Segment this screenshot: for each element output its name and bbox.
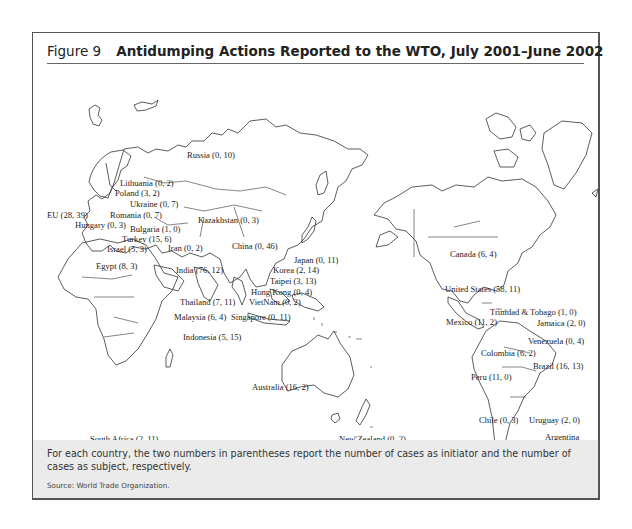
label-venezuela: Venezuela (0, 4) bbox=[528, 337, 584, 346]
world-map: Russia (0, 10) Lithuania (0, 2) Poland (… bbox=[34, 67, 599, 465]
label-chile: Chile (0, 3) bbox=[479, 416, 518, 425]
label-united-states: United States (58, 11) bbox=[445, 285, 520, 294]
figure-title: Antidumping Actions Reported to the WTO,… bbox=[116, 43, 603, 59]
label-mexico: Mexico (11, 2) bbox=[446, 318, 497, 327]
figure-number: Figure 9 bbox=[47, 43, 101, 59]
caption-source: Source: World Trade Organization. bbox=[47, 481, 169, 490]
label-japan: Japan (0, 11) bbox=[294, 256, 338, 265]
label-thailand: Thailand (7, 11) bbox=[180, 298, 235, 307]
label-israel: Israel (5, 3) bbox=[107, 245, 147, 254]
label-malaysia: Malaysia (6, 4) bbox=[174, 313, 226, 322]
label-jamaica: Jamaica (2, 0) bbox=[537, 319, 585, 328]
label-turkey: Turkey (15, 6) bbox=[122, 235, 172, 244]
label-singapore: Singapore (0, 11) bbox=[231, 313, 291, 322]
label-indonesia: Indonesia (5, 15) bbox=[183, 333, 241, 342]
label-taipei: Taipei (3, 13) bbox=[270, 277, 316, 286]
figure-header: Figure 9 Antidumping Actions Reported to… bbox=[47, 41, 584, 64]
label-ukraine: Ukraine (0, 7) bbox=[130, 200, 178, 209]
label-kazakhstan: Kazakhstan (0, 3) bbox=[198, 216, 259, 225]
label-canada: Canada (6, 4) bbox=[450, 250, 497, 259]
caption-note: For each country, the two numbers in par… bbox=[47, 447, 586, 473]
label-brazil: Brazil (16, 13) bbox=[533, 362, 583, 371]
label-korea: Korea (2, 14) bbox=[273, 266, 319, 275]
label-romania: Romania (0, 7) bbox=[110, 211, 162, 220]
label-colombia: Colombia (6, 2) bbox=[481, 349, 536, 358]
label-china: China (0, 46) bbox=[232, 242, 278, 251]
figure-frame: Figure 9 Antidumping Actions Reported to… bbox=[32, 32, 600, 500]
label-egypt: Egypt (8, 3) bbox=[96, 262, 137, 271]
label-iran: Iran (0, 2) bbox=[168, 244, 203, 253]
label-australia: Australia (16, 2) bbox=[252, 383, 309, 392]
label-bulgaria: Bulgaria (1, 0) bbox=[130, 225, 180, 234]
label-lithuania: Lithuania (0, 2) bbox=[120, 179, 174, 188]
label-vietnam: VietNam (0, 2) bbox=[249, 298, 301, 307]
figure-caption: For each country, the two numbers in par… bbox=[33, 440, 598, 498]
label-hong-kong: Hong Kong (0, 4) bbox=[251, 288, 312, 297]
label-eu: EU (28, 39) bbox=[47, 211, 88, 220]
label-poland: Poland (3, 2) bbox=[115, 189, 160, 198]
label-russia: Russia (0, 10) bbox=[187, 151, 235, 160]
label-uruguay: Uruguay (2, 0) bbox=[529, 416, 580, 425]
label-trinidad-tobago: Trinidad & Tobago (1, 0) bbox=[490, 308, 577, 317]
label-hungary: Hungary (0, 3) bbox=[75, 221, 126, 230]
label-peru: Peru (11, 0) bbox=[471, 373, 512, 382]
label-india: India (76, 12) bbox=[176, 266, 223, 275]
